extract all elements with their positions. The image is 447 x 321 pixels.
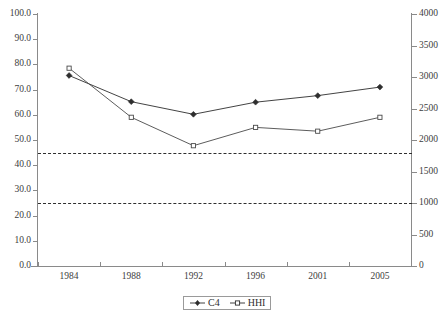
data-point-marker-hhi [254, 125, 258, 129]
series-line-hhi [69, 68, 380, 146]
data-series-group [0, 0, 447, 321]
series-line-c4 [69, 76, 380, 115]
legend-entry-c4[interactable]: C4 [189, 298, 220, 308]
data-point-marker-hhi [191, 144, 195, 148]
legend-entry-hhi[interactable]: HHI [229, 298, 266, 308]
data-point-marker-hhi [129, 115, 133, 119]
data-point-marker-c4 [315, 93, 321, 99]
data-point-marker-c4 [66, 73, 72, 79]
open-square-marker-icon [229, 298, 246, 308]
legend-label: C4 [208, 298, 220, 308]
legend-label: HHI [248, 298, 266, 308]
data-point-marker-c4 [253, 99, 259, 105]
data-point-marker-hhi [378, 115, 382, 119]
filled-diamond-marker-icon [189, 298, 206, 308]
data-point-marker-c4 [377, 84, 383, 90]
data-point-marker-c4 [128, 99, 134, 105]
data-point-marker-hhi [67, 66, 71, 70]
data-point-marker-hhi [316, 129, 320, 133]
data-point-marker-c4 [191, 111, 197, 117]
chart-legend: C4HHI [183, 296, 271, 310]
chart-container: 0.010.020.030.040.050.060.070.080.090.01… [0, 0, 447, 321]
